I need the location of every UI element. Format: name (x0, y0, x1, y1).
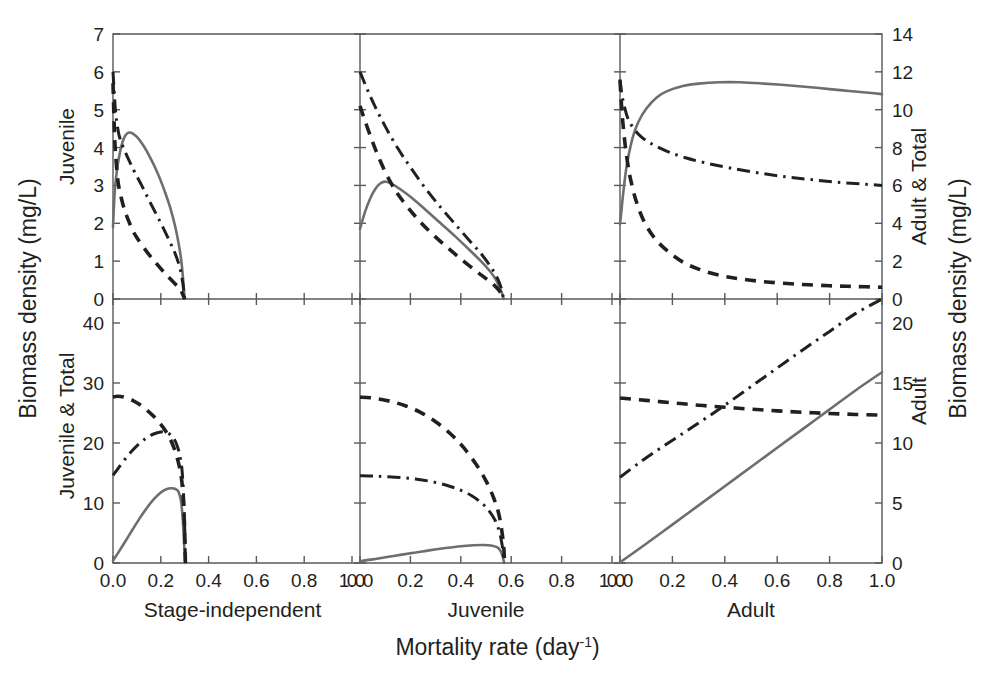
column-label-1: Juvenile (447, 598, 524, 621)
x-tick-label-0-4: 0.8 (291, 570, 317, 591)
y-tick-label-bottom_right-4: 20 (892, 313, 913, 334)
x-axis-title-exponent: -1 (579, 634, 592, 650)
right-axis-title: Biomass density (mg/L) (945, 178, 971, 418)
y-tick-label-top_left-5: 5 (93, 100, 104, 121)
left-axis-title: Biomass density (mg/L) (15, 178, 41, 418)
x-tick-label-1-3: 0.6 (498, 570, 524, 591)
row-label-adult: Adult (907, 377, 930, 425)
y-tick-label-top_right-1: 2 (892, 251, 903, 272)
x-tick-label-0-3: 0.6 (243, 570, 269, 591)
x-tick-label-1-4: 0.8 (548, 570, 574, 591)
y-tick-label-top_right-7: 14 (892, 24, 914, 45)
y-tick-label-top_left-7: 7 (93, 24, 104, 45)
y-tick-label-bottom_left-2: 20 (83, 433, 104, 454)
x-axis-title-main: Mortality rate (day (395, 634, 580, 660)
x-tick-label-2-0: 0.0 (607, 570, 633, 591)
row-label-juvenile: Juvenile (55, 108, 78, 185)
row-label-juvenile-total: Juvenile & Total (55, 353, 78, 500)
x-axis-title-tail: ) (592, 634, 600, 660)
x-tick-label-0-2: 0.4 (195, 570, 222, 591)
y-tick-label-top_left-0: 0 (93, 289, 104, 310)
x-tick-label-2-1: 0.2 (659, 570, 685, 591)
x-tick-label-2-3: 0.6 (764, 570, 790, 591)
y-tick-label-top_right-6: 12 (892, 62, 913, 83)
y-tick-label-bottom_right-2: 10 (892, 433, 913, 454)
y-tick-label-bottom_left-4: 40 (83, 313, 104, 334)
x-tick-label-1-0: 0.0 (347, 570, 373, 591)
y-tick-label-top_left-4: 4 (93, 138, 104, 159)
y-tick-label-top_left-2: 2 (93, 213, 104, 234)
x-tick-label-0-1: 0.2 (148, 570, 174, 591)
row-label-adult-total: Adult & Total (907, 128, 930, 246)
column-label-0: Stage-independent (144, 598, 322, 621)
y-tick-label-bottom_right-1: 5 (892, 493, 903, 514)
y-tick-label-top_right-5: 10 (892, 100, 913, 121)
y-tick-label-top_right-0: 0 (892, 289, 903, 310)
y-tick-label-bottom_left-3: 30 (83, 373, 104, 394)
column-label-2: Adult (727, 598, 775, 621)
y-tick-label-top_right-2: 4 (892, 213, 903, 234)
y-tick-label-bottom_left-1: 10 (83, 493, 104, 514)
x-tick-label-0-0: 0.0 (100, 570, 126, 591)
multi-panel-line-chart: 0123456702468101214010203040051015200.00… (0, 0, 999, 675)
x-tick-label-2-5: 1.0 (869, 570, 895, 591)
figure-container: 0123456702468101214010203040051015200.00… (0, 0, 999, 675)
y-tick-label-top_left-1: 1 (93, 251, 104, 272)
y-tick-label-top_left-3: 3 (93, 175, 104, 196)
x-tick-label-2-2: 0.4 (712, 570, 739, 591)
x-tick-label-2-4: 0.8 (816, 570, 842, 591)
x-axis-title: Mortality rate (day-1) (395, 634, 599, 660)
x-tick-label-1-2: 0.4 (448, 570, 475, 591)
y-tick-label-top_right-3: 6 (892, 175, 903, 196)
y-tick-label-top_left-6: 6 (93, 62, 104, 83)
y-tick-label-top_right-4: 8 (892, 138, 903, 159)
x-tick-label-1-1: 0.2 (397, 570, 423, 591)
